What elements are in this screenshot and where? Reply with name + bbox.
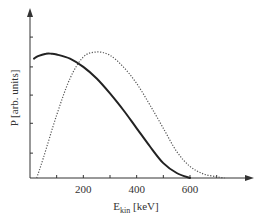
x-axis-label: Ekin [keV]: [113, 200, 158, 215]
chart: 200400600 Ekin [keV] P [arb. units]: [0, 0, 260, 220]
y-axis-arrow-icon: [27, 8, 33, 17]
x-tick-label: 200: [75, 183, 92, 195]
x-tick-label: 400: [128, 183, 145, 195]
y-axis-label: P [arb. units]: [8, 70, 20, 127]
dotted-series-line: [37, 52, 225, 178]
x-axis-tick-labels: 200400600: [75, 183, 199, 195]
solid-series-line: [34, 53, 190, 178]
x-axis-arrow-icon: [245, 175, 254, 181]
x-tick-label: 600: [182, 183, 199, 195]
